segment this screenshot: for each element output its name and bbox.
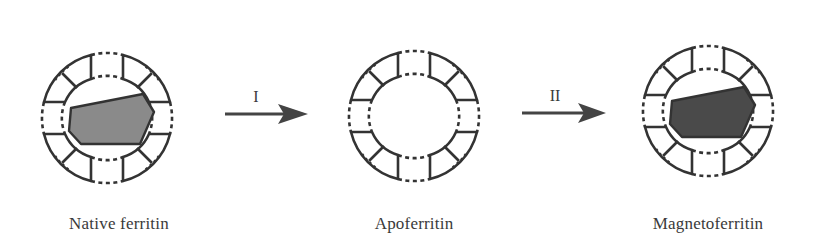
caption-apoferritin: Apoferritin [375, 214, 454, 234]
native-ferritin-shell [42, 53, 172, 183]
apoferritin-shell [349, 51, 479, 181]
caption-native-ferritin: Native ferritin [69, 214, 169, 234]
iron-core-icon [69, 94, 154, 144]
caption-magnetoferritin: Magnetoferritin [653, 214, 764, 234]
arrow-step-II-icon [522, 103, 606, 123]
magnetite-core-icon [670, 87, 755, 137]
step-label-II: II [550, 87, 561, 105]
magnetoferritin-shell [643, 46, 773, 176]
ferritin-diagram: I II Native ferritin Apoferritin Magneto… [0, 0, 819, 249]
step-label-I: I [253, 88, 258, 106]
arrow-step-I-icon [225, 104, 308, 124]
